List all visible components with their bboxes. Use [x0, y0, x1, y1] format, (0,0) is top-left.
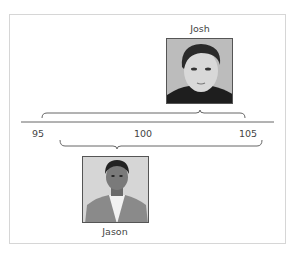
jason-range-brace	[60, 140, 262, 149]
tick-label-105: 105	[239, 128, 257, 139]
tick-label-100: 100	[134, 128, 152, 139]
score-axis-diagram	[0, 0, 296, 253]
tick-label-95: 95	[32, 128, 44, 139]
josh-range-brace	[42, 110, 245, 118]
